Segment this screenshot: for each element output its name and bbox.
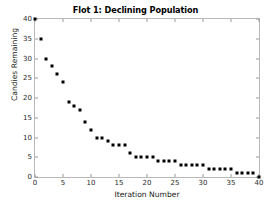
x-tick-mark	[63, 174, 64, 177]
y-tick-mark-right	[256, 58, 259, 59]
data-point	[134, 156, 137, 159]
data-point	[162, 160, 165, 163]
y-tick-label: 15	[23, 114, 32, 121]
y-tick-mark	[35, 117, 38, 118]
data-point	[202, 164, 205, 167]
x-tick-mark	[175, 174, 176, 177]
data-point	[78, 108, 81, 111]
data-point	[213, 168, 216, 171]
x-tick-mark	[231, 174, 232, 177]
y-tick-label: 35	[23, 35, 32, 42]
y-tick-mark	[35, 157, 38, 158]
plot-area: 05101520253035400510152025303540	[34, 18, 260, 178]
chart-title: Flot 1: Declining Population	[0, 5, 271, 15]
data-point	[185, 164, 188, 167]
y-tick-label: 25	[23, 75, 32, 82]
data-point	[129, 152, 132, 155]
y-tick-mark-right	[256, 117, 259, 118]
y-tick-mark-right	[256, 78, 259, 79]
data-point	[67, 100, 70, 103]
y-tick-mark	[35, 38, 38, 39]
x-tick-mark-top	[63, 19, 64, 22]
data-point	[39, 37, 42, 40]
chart-figure: Flot 1: Declining Population 05101520253…	[0, 0, 271, 209]
x-tick-label: 25	[171, 180, 180, 187]
y-tick-mark-right	[256, 38, 259, 39]
x-tick-label: 5	[61, 180, 65, 187]
x-tick-mark	[203, 174, 204, 177]
x-tick-mark-top	[119, 19, 120, 22]
data-point	[62, 81, 65, 84]
x-tick-mark-top	[203, 19, 204, 22]
x-tick-label: 0	[33, 180, 37, 187]
data-point	[56, 73, 59, 76]
y-tick-mark-right	[256, 137, 259, 138]
data-point	[218, 168, 221, 171]
y-tick-label: 30	[23, 55, 32, 62]
x-tick-mark	[35, 174, 36, 177]
x-tick-label: 10	[87, 180, 96, 187]
data-point	[207, 168, 210, 171]
y-tick-label: 10	[23, 134, 32, 141]
data-point	[252, 172, 255, 175]
x-tick-label: 15	[115, 180, 124, 187]
data-point	[34, 18, 37, 21]
x-tick-mark-top	[91, 19, 92, 22]
data-point	[146, 156, 149, 159]
x-tick-mark	[147, 174, 148, 177]
data-point	[112, 144, 115, 147]
x-tick-mark	[91, 174, 92, 177]
data-point	[106, 140, 109, 143]
data-point	[246, 172, 249, 175]
data-point	[73, 104, 76, 107]
data-point	[241, 172, 244, 175]
y-tick-label: 5	[28, 154, 32, 161]
x-tick-mark-top	[259, 19, 260, 22]
data-point	[45, 57, 48, 60]
data-point	[151, 156, 154, 159]
y-tick-label: 20	[23, 95, 32, 102]
x-axis-label: Iteration Number	[34, 190, 260, 199]
x-tick-mark-top	[231, 19, 232, 22]
data-point	[224, 168, 227, 171]
data-point	[90, 128, 93, 131]
y-tick-mark	[35, 98, 38, 99]
x-tick-label: 40	[255, 180, 264, 187]
data-point	[101, 136, 104, 139]
data-point	[168, 160, 171, 163]
data-point	[123, 144, 126, 147]
y-tick-mark	[35, 78, 38, 79]
x-tick-label: 30	[199, 180, 208, 187]
data-point	[230, 168, 233, 171]
x-tick-label: 20	[143, 180, 152, 187]
data-point	[179, 164, 182, 167]
data-point	[174, 160, 177, 163]
data-point	[190, 164, 193, 167]
data-point	[258, 176, 261, 179]
x-tick-mark	[119, 174, 120, 177]
data-point	[235, 172, 238, 175]
y-tick-mark-right	[256, 98, 259, 99]
x-tick-mark-top	[147, 19, 148, 22]
data-point	[118, 144, 121, 147]
y-tick-mark	[35, 58, 38, 59]
data-point	[84, 120, 87, 123]
data-point	[140, 156, 143, 159]
x-tick-mark-top	[175, 19, 176, 22]
data-point	[196, 164, 199, 167]
y-tick-label: 40	[23, 16, 32, 23]
x-tick-label: 35	[227, 180, 236, 187]
y-tick-mark	[35, 137, 38, 138]
data-point	[157, 160, 160, 163]
data-point	[95, 136, 98, 139]
y-tick-mark-right	[256, 157, 259, 158]
data-point	[50, 65, 53, 68]
y-axis-label: Candies Remaining	[10, 5, 19, 125]
y-tick-label: 0	[28, 174, 32, 181]
